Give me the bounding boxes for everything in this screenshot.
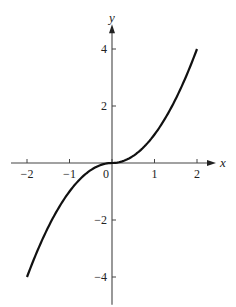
y-tick-label: 4 [101, 42, 107, 56]
x-tick-label: 1 [152, 167, 158, 181]
y-tick-label: 2 [101, 99, 107, 113]
x-tick-label: −1 [63, 167, 76, 181]
chart: −2−1012−4−224 x y [0, 0, 236, 307]
x-tick-label: 2 [194, 167, 200, 181]
y-axis-label: y [107, 10, 115, 25]
axes [11, 24, 216, 305]
y-axis-arrow-icon [109, 24, 115, 33]
x-tick-label: −2 [21, 167, 34, 181]
y-tick-label: −2 [94, 213, 107, 227]
y-tick-label: −4 [94, 270, 107, 284]
x-axis-arrow-icon [207, 160, 216, 166]
x-axis-label: x [219, 155, 226, 170]
x-tick-label: 0 [103, 167, 109, 181]
